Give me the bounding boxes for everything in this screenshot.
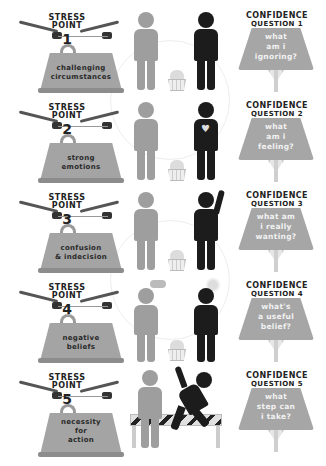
weight-base xyxy=(38,452,124,457)
figures-scene xyxy=(128,368,224,458)
weight-base xyxy=(38,268,124,273)
weight-ring-icon xyxy=(60,404,76,414)
popcorn-bucket-icon xyxy=(168,340,186,360)
stress-label: necessityforaction xyxy=(40,418,122,445)
confidence-subtitle: QUESTION 5 xyxy=(228,381,326,388)
stress-point-weight: STRESSPOINT 4 negativebeliefs xyxy=(14,278,120,368)
row-4: STRESSPOINT 4 negativebeliefs CONFIDENCE… xyxy=(0,278,326,368)
confidence-question-lamp: CONFIDENCE QUESTION 3 WHAT amI REALLYWAN… xyxy=(228,188,326,278)
confidence-subtitle: QUESTION 4 xyxy=(228,291,326,298)
popcorn-bucket-icon xyxy=(168,160,186,180)
stress-label: challengingcircumstances xyxy=(40,64,122,82)
stress-point-weight: STRESSPOINT 2 strongemotions xyxy=(14,98,120,188)
stress-title: STRESSPOINT xyxy=(14,194,120,210)
figures-scene: ♥ xyxy=(128,98,224,188)
confidence-title: CONFIDENCE xyxy=(228,282,326,290)
confidence-subtitle: QUESTION 2 xyxy=(228,111,326,118)
weight-ring-icon xyxy=(60,134,76,144)
row-5: STRESSPOINT 5 necessityforaction CONFIDE… xyxy=(0,368,326,458)
confidence-question-lamp: CONFIDENCE QUESTION 2 WHATam IFEELING? xyxy=(228,98,326,188)
confidence-question-text: WHAT amI REALLYWANTING? xyxy=(238,212,314,242)
confidence-question-text: WHAT'Sa USEFULBELIEF? xyxy=(238,302,314,332)
weight-base xyxy=(38,358,124,363)
stress-point-weight: STRESSPOINT 1 challengingcircumstances xyxy=(14,8,120,98)
lamp-pole xyxy=(274,250,278,272)
row-3: STRESSPOINT 3 confusion& indecision CONF… xyxy=(0,188,326,278)
figures-scene xyxy=(128,188,224,278)
confidence-question-lamp: CONFIDENCE QUESTION 5 WHATSTEP CANI TAKE… xyxy=(228,368,326,458)
confidence-question-text: WHATam IIGNORING? xyxy=(238,32,314,62)
stress-title: STRESSPOINT xyxy=(14,104,120,120)
confidence-subtitle: QUESTION 3 xyxy=(228,201,326,208)
confidence-subtitle: QUESTION 1 xyxy=(228,21,326,28)
confidence-title: CONFIDENCE xyxy=(228,372,326,380)
confidence-title: CONFIDENCE xyxy=(228,102,326,110)
figures-scene xyxy=(128,8,224,98)
lamp-pole xyxy=(274,430,278,452)
weight-base xyxy=(38,178,124,183)
broken-heart-icon: ♥ xyxy=(201,123,210,134)
confidence-title: CONFIDENCE xyxy=(228,12,326,20)
weight-ring-icon xyxy=(60,314,76,324)
stress-title: STRESSPOINT xyxy=(14,374,120,390)
weight-ring-icon xyxy=(60,224,76,234)
stress-point-weight: STRESSPOINT 5 necessityforaction xyxy=(14,368,120,458)
stress-label: negativebeliefs xyxy=(40,334,122,352)
rain-cloud-icon xyxy=(150,280,166,288)
figures-scene xyxy=(128,278,224,368)
lamp-pole xyxy=(274,70,278,92)
lamp-pole xyxy=(274,340,278,362)
stress-title: STRESSPOINT xyxy=(14,14,120,30)
popcorn-bucket-icon xyxy=(168,250,186,270)
stress-point-weight: STRESSPOINT 3 confusion& indecision xyxy=(14,188,120,278)
lamp-pole xyxy=(274,160,278,182)
stress-label: confusion& indecision xyxy=(40,244,122,262)
confidence-question-text: WHATam IFEELING? xyxy=(238,122,314,152)
weight-ring-icon xyxy=(60,44,76,54)
confidence-question-lamp: CONFIDENCE QUESTION 4 WHAT'Sa USEFULBELI… xyxy=(228,278,326,368)
weight-base xyxy=(38,88,124,93)
row-2: STRESSPOINT 2 strongemotions ♥ CONFIDENC… xyxy=(0,98,326,188)
stress-title: STRESSPOINT xyxy=(14,284,120,300)
popcorn-bucket-icon xyxy=(168,70,186,90)
stress-label: strongemotions xyxy=(40,154,122,172)
barrier-leg xyxy=(132,426,136,448)
confidence-title: CONFIDENCE xyxy=(228,192,326,200)
barrier-leg xyxy=(216,426,220,448)
confidence-question-lamp: CONFIDENCE QUESTION 1 WHATam IIGNORING? xyxy=(228,8,326,98)
row-1: STRESSPOINT 1 challengingcircumstances C… xyxy=(0,8,326,98)
confidence-question-text: WHATSTEP CANI TAKE? xyxy=(238,392,314,422)
